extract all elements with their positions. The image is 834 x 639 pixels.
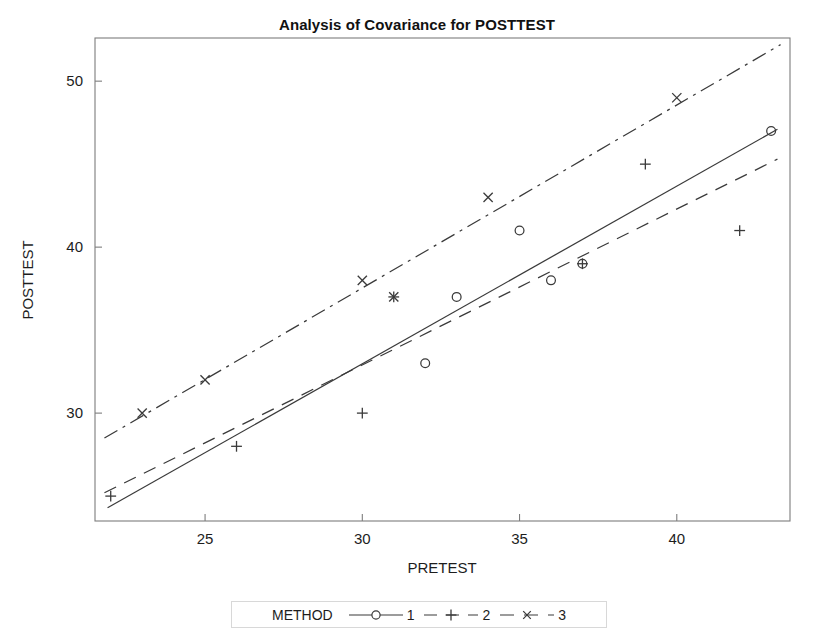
data-point-plus bbox=[577, 258, 588, 269]
legend: METHOD 1 2 3 bbox=[231, 601, 607, 628]
data-markers bbox=[105, 93, 775, 501]
legend-key-cross-dashdot-icon bbox=[499, 607, 555, 623]
legend-entry-1[interactable]: 1 bbox=[348, 607, 415, 623]
x-tick-label: 40 bbox=[668, 530, 685, 547]
data-point-plus bbox=[734, 225, 745, 236]
data-point-circle bbox=[452, 293, 461, 302]
data-point-cross bbox=[483, 193, 492, 202]
chart-page: Analysis of Covariance for POSTTEST 2530… bbox=[0, 0, 834, 639]
y-tick-label: 30 bbox=[66, 404, 83, 421]
legend-label-3: 3 bbox=[558, 607, 566, 623]
regression-line-1 bbox=[108, 129, 778, 507]
axis-ticks bbox=[95, 81, 677, 521]
plot-area: 25303540304050 PRETEST POSTTEST bbox=[0, 0, 834, 639]
data-point-circle bbox=[547, 276, 556, 285]
data-point-circle bbox=[421, 359, 430, 368]
y-axis-title: POSTTEST bbox=[19, 240, 36, 319]
legend-label-2: 2 bbox=[482, 607, 490, 623]
data-point-plus bbox=[231, 441, 242, 452]
legend-key-circle-solid-icon bbox=[348, 607, 404, 623]
data-point-plus bbox=[105, 491, 116, 502]
data-point-plus bbox=[640, 159, 651, 170]
y-tick-label: 50 bbox=[66, 72, 83, 89]
x-tick-label: 30 bbox=[354, 530, 371, 547]
legend-key-plus-dashed-icon bbox=[423, 607, 479, 623]
x-tick-label: 25 bbox=[197, 530, 214, 547]
data-point-cross bbox=[200, 375, 209, 384]
axis-tick-labels: 25303540304050 bbox=[66, 72, 685, 547]
regression-lines bbox=[104, 45, 780, 508]
data-point-cross bbox=[358, 276, 367, 285]
legend-entry-2[interactable]: 2 bbox=[423, 607, 490, 623]
data-point-cross bbox=[672, 93, 681, 102]
y-tick-label: 40 bbox=[66, 238, 83, 255]
legend-label-1: 1 bbox=[407, 607, 415, 623]
legend-entry-3[interactable]: 3 bbox=[499, 607, 566, 623]
x-axis-title: PRETEST bbox=[407, 559, 476, 576]
data-point-circle bbox=[515, 226, 524, 235]
data-point-plus bbox=[357, 408, 368, 419]
plot-frame bbox=[95, 38, 790, 521]
x-tick-label: 35 bbox=[511, 530, 528, 547]
regression-line-2 bbox=[104, 159, 777, 493]
legend-title: METHOD bbox=[272, 607, 333, 623]
